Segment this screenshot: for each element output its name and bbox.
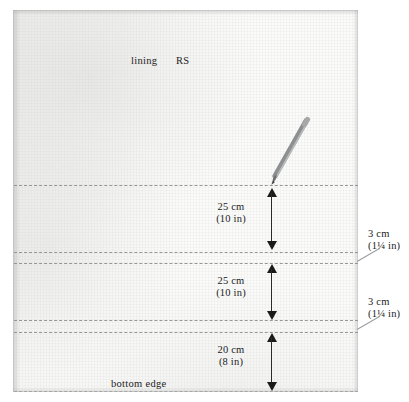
fabric-shading: [13, 10, 358, 392]
dashed-line-4: [14, 320, 358, 321]
dimension-imperial: (10 in): [203, 213, 259, 225]
arrowhead-down-icon: [267, 311, 277, 320]
fabric-edge-left: [13, 10, 20, 392]
fabric-edge-right: [353, 10, 358, 392]
callout-metric: 3 cm: [368, 296, 390, 307]
fabric-side-label: RS: [176, 55, 189, 66]
fabric-edge-top: [13, 10, 358, 15]
arrowhead-up-icon: [267, 333, 277, 342]
arrowhead-up-icon: [267, 188, 277, 197]
dimension-metric: 25 cm: [218, 201, 245, 212]
dimension-label-segment-bottom: 20 cm (8 in): [203, 344, 259, 368]
arrow-shaft: [271, 338, 272, 386]
callout-metric: 3 cm: [368, 228, 390, 239]
callout-imperial: (1¼ in): [368, 240, 400, 252]
dimension-label-segment-middle: 25 cm (10 in): [203, 275, 259, 299]
dashed-line-2: [14, 252, 358, 253]
dimension-arrow-segment-bottom: [265, 333, 279, 391]
dimension-arrow-segment-top: [265, 188, 279, 250]
diagram-canvas: lining RS 25 cm (10 in) 25 cm (10: [0, 0, 409, 402]
fabric-name-label: lining: [131, 55, 157, 66]
pencil-icon: [262, 116, 314, 188]
callout-imperial: (1¼ in): [368, 308, 400, 320]
dashed-line-3: [14, 263, 358, 264]
dimension-metric: 20 cm: [218, 344, 245, 355]
arrowhead-up-icon: [267, 264, 277, 273]
dashed-line-bottom-edge: [14, 391, 358, 392]
arrow-shaft: [271, 269, 272, 315]
dimension-metric: 25 cm: [218, 275, 245, 286]
dimension-arrow-segment-middle: [265, 264, 279, 320]
dashed-line-5: [14, 332, 358, 333]
dimension-label-segment-top: 25 cm (10 in): [203, 201, 259, 225]
arrow-shaft: [271, 193, 272, 245]
dimension-imperial: (8 in): [203, 356, 259, 368]
callout-label-lower-band: 3 cm (1¼ in): [368, 296, 400, 320]
lining-fabric-panel: [13, 10, 358, 392]
callout-label-upper-band: 3 cm (1¼ in): [368, 228, 400, 252]
arrowhead-down-icon: [267, 241, 277, 250]
dimension-imperial: (10 in): [203, 287, 259, 299]
bottom-edge-label: bottom edge: [111, 378, 167, 389]
arrowhead-down-icon: [267, 382, 277, 391]
